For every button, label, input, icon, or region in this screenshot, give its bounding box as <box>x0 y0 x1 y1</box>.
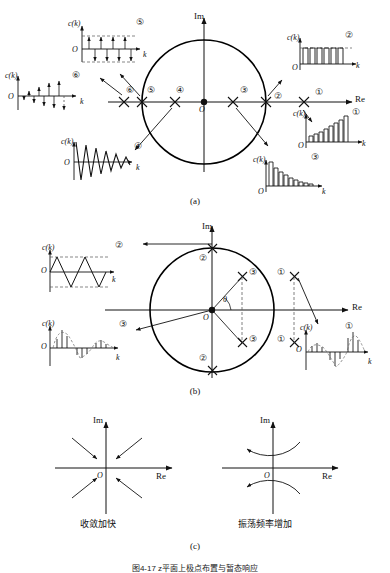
im-axis-label-b: Im <box>202 222 212 231</box>
plot-6-origin: O <box>8 93 14 101</box>
plot-b2-ylabel: c(k) <box>42 244 54 252</box>
plot-4-origin: O <box>64 159 70 167</box>
im-axis-label-a: Im <box>194 12 204 21</box>
plot-4-index: ④ <box>134 142 142 151</box>
pole-label-6-a: ⑥ <box>126 86 134 95</box>
plot-6-index: ⑥ <box>72 71 80 80</box>
pole-label-2-a: ② <box>274 92 282 101</box>
response-plot-b1 <box>306 330 368 370</box>
response-plot-6 <box>18 76 76 110</box>
pole-marker-1-upper <box>290 272 299 281</box>
plot-b1-ylabel: c(k) <box>300 324 312 332</box>
response-plot-3 <box>266 160 322 192</box>
pole-label-3-a: ③ <box>240 86 248 95</box>
plot-5-ylabel: c(k) <box>68 20 80 28</box>
theta-label: θ <box>223 296 227 304</box>
plot-b3-origin: O <box>41 343 47 351</box>
plot-1-origin: O <box>298 142 304 150</box>
plot-3-ylabel: c(k) <box>253 156 265 164</box>
figure-caption: 图4-17 z平面上极点布置与暂态响应 <box>0 562 390 573</box>
panel-c-left <box>55 422 172 514</box>
plot-1-ylabel: c(k) <box>293 110 305 118</box>
panel-c-right-label: 振荡频率增加 <box>238 520 292 529</box>
pole-marker-3-lower <box>238 338 247 347</box>
pole-label-3-lower-b: ③ <box>249 335 257 344</box>
response-plot-4 <box>74 142 132 180</box>
plot-b2-index: ② <box>115 241 123 250</box>
panel-c-left-label: 收敛加快 <box>80 520 116 529</box>
im-axis-label-c-left: Im <box>93 416 103 425</box>
response-plot-b3 <box>50 326 118 366</box>
panel-a: c(k) k O ⑤ c(k) k O ⑥ c(k) k O ④ c(k) k … <box>0 0 390 200</box>
im-axis-label-c-right: Im <box>260 416 270 425</box>
re-axis-label-a: Re <box>355 95 365 104</box>
plot-6-xlabel: k <box>80 98 84 106</box>
plot-3-index: ③ <box>311 153 319 162</box>
response-plot-5 <box>82 26 140 62</box>
plot-5-xlabel: k <box>143 51 147 59</box>
caption-c: (c) <box>0 541 390 551</box>
re-axis-label-c-left: Re <box>156 472 166 481</box>
plot-2-xlabel: k <box>356 62 360 70</box>
plot-b3-index: ③ <box>119 320 127 329</box>
leader-arrows-b <box>136 244 318 330</box>
plot-3-origin: O <box>258 188 264 196</box>
panel-c: Im Re O Im Re O 收敛加快 振荡频率增加 <box>0 386 390 536</box>
plot-1-index: ① <box>352 108 360 117</box>
response-plot-b2 <box>50 250 114 292</box>
plot-b1-origin: O <box>296 346 302 354</box>
pole-label-1-lower-b: ① <box>277 335 285 344</box>
re-axis-label-c-right: Re <box>322 472 332 481</box>
pole-label-1-a: ① <box>315 88 323 97</box>
plot-3-xlabel: k <box>322 188 326 196</box>
plot-4-xlabel: k <box>136 164 140 172</box>
panel-b: Im Re O θ ② ② ③ ③ ① ① c(k) k O ② c(k) k … <box>0 196 390 386</box>
plot-2-index: ② <box>345 31 353 40</box>
plot-b3-xlabel: k <box>116 354 120 362</box>
panel-c-right <box>222 422 338 514</box>
plot-2-ylabel: c(k) <box>287 34 299 42</box>
pole-label-3-upper-b: ③ <box>249 268 257 277</box>
origin-label-a: O <box>199 106 205 114</box>
plot-b1-index: ① <box>345 322 353 331</box>
origin-label-c-left: O <box>97 472 103 480</box>
plot-5-origin: O <box>72 46 78 54</box>
plot-b2-origin: O <box>41 267 47 275</box>
plot-6-ylabel: c(k) <box>5 72 17 80</box>
plot-b2-xlabel: k <box>112 276 116 284</box>
plot-2-origin: O <box>292 64 298 72</box>
pole-label-4-a: ④ <box>176 86 184 95</box>
pole-label-2-lower-b: ② <box>199 354 207 363</box>
response-plot-1 <box>306 114 362 148</box>
panel-b-graphics <box>0 196 390 386</box>
panel-c-graphics <box>0 386 390 536</box>
pole-label-5-a: ⑤ <box>147 86 155 95</box>
plot-b1-xlabel: k <box>368 358 372 366</box>
plot-4-ylabel: c(k) <box>61 138 73 146</box>
pole-label-1-upper-b: ① <box>277 268 285 277</box>
panel-a-graphics <box>0 0 390 200</box>
origin-label-b: O <box>203 314 209 322</box>
pole-label-2-upper-b: ② <box>199 254 207 263</box>
plot-5-index: ⑤ <box>136 18 144 27</box>
response-plot-2 <box>300 38 356 70</box>
plot-b3-ylabel: c(k) <box>42 320 54 328</box>
re-axis-label-b: Re <box>352 303 362 312</box>
origin-label-c-right: O <box>264 472 270 480</box>
plot-1-xlabel: k <box>362 140 366 148</box>
